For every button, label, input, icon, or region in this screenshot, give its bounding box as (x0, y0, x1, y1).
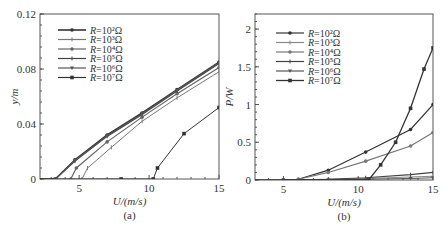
series-line (82, 72, 219, 179)
circle-marker-icon (409, 144, 413, 148)
square-marker-icon (422, 67, 426, 71)
x-tick-label: 5 (281, 183, 287, 195)
y-axis-label: y/m (8, 89, 20, 106)
series-line (40, 62, 219, 179)
circle-marker-icon (217, 66, 221, 70)
x-tick-label: 5 (76, 182, 82, 194)
circle-marker-icon (409, 128, 413, 132)
y-tick-label: 1 (246, 99, 252, 111)
y-axis-label: P/W (223, 87, 235, 108)
x-tick-label: 10 (144, 182, 156, 194)
chart-panel-a: 5101500.040.080.12U/(m/s)y/m(a)R=10²ΩR=1… (8, 8, 225, 222)
square-marker-icon (217, 106, 221, 110)
y-tick-label: 0.08 (17, 63, 37, 75)
square-marker-icon (182, 132, 186, 136)
panel-label: (a) (123, 209, 136, 222)
series-group (40, 60, 221, 181)
x-tick-label: 15 (428, 183, 440, 195)
x-axis-label: U/(m/s) (113, 195, 147, 208)
square-marker-icon (156, 166, 160, 170)
plot-frame (255, 14, 433, 180)
square-marker-icon (288, 79, 292, 83)
square-marker-icon (379, 163, 383, 167)
square-marker-icon (119, 177, 123, 181)
circle-marker-icon (288, 31, 292, 35)
circle-marker-icon (70, 47, 74, 51)
square-marker-icon (151, 177, 155, 181)
series-group (255, 46, 435, 182)
square-marker-icon (367, 178, 371, 182)
circle-marker-icon (326, 171, 330, 175)
circle-marker-icon (75, 166, 79, 170)
panel-label: (b) (338, 210, 351, 223)
circle-marker-icon (431, 131, 435, 135)
circle-marker-icon (364, 159, 368, 163)
series-line (71, 68, 219, 179)
figure: 5101500.040.080.12U/(m/s)y/m(a)R=10²ΩR=1… (0, 0, 444, 226)
figure-svg: 5101500.040.080.12U/(m/s)y/m(a)R=10²ΩR=1… (0, 0, 444, 226)
circle-marker-icon (431, 103, 435, 107)
y-tick-label: 1.5 (237, 61, 251, 73)
square-marker-icon (431, 46, 435, 50)
series-line (283, 105, 433, 180)
y-tick-label: 0 (31, 173, 37, 185)
plot-frame (40, 14, 219, 179)
square-marker-icon (70, 76, 74, 80)
y-tick-label: 0 (246, 174, 252, 186)
circle-marker-icon (70, 28, 74, 32)
legend-entry: R=10⁷Ω (89, 72, 123, 83)
x-tick-label: 10 (353, 183, 365, 195)
chart-panel-b: 5101500.511.52U/(m/s)P/W(b)R=10²ΩR=10³ΩR… (223, 14, 439, 223)
y-tick-label: 2 (246, 23, 252, 35)
series-line (255, 48, 433, 180)
y-tick-label: 0.04 (17, 118, 37, 130)
square-marker-icon (409, 107, 413, 111)
legend-entry: R=10⁷Ω (307, 75, 341, 86)
circle-marker-icon (105, 140, 109, 144)
circle-marker-icon (288, 50, 292, 54)
y-tick-label: 0.12 (17, 8, 36, 20)
y-tick-label: 0.5 (237, 136, 251, 148)
square-marker-icon (394, 140, 398, 144)
circle-marker-icon (364, 150, 368, 154)
x-axis-label: U/(m/s) (327, 196, 361, 209)
x-tick-label: 15 (214, 182, 226, 194)
